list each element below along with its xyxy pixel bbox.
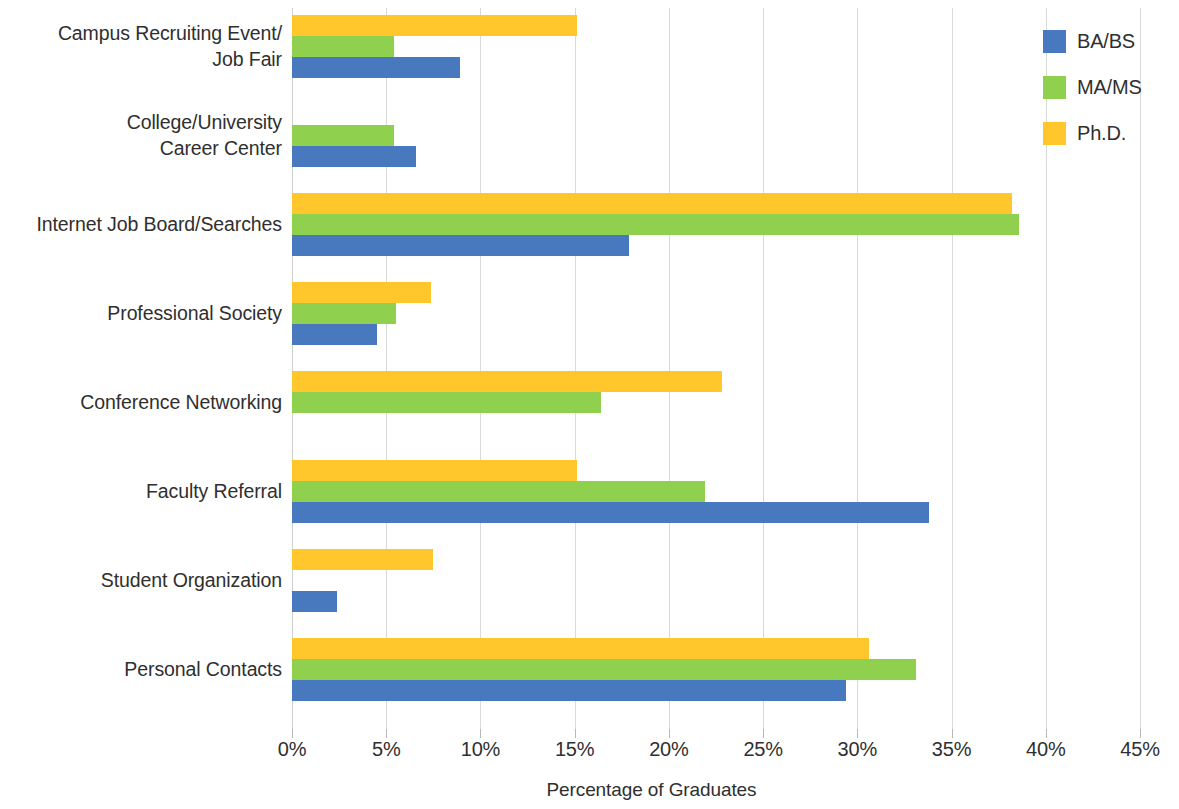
bar-group — [292, 14, 1140, 78]
bar-group — [292, 548, 1140, 612]
bar-group — [292, 459, 1140, 523]
x-axis-tick-label: 20% — [624, 738, 714, 761]
bar — [292, 392, 601, 413]
y-axis-category-label: Faculty Referral — [0, 478, 282, 504]
bar — [292, 502, 929, 523]
bar — [292, 460, 577, 481]
plot-area — [292, 8, 1140, 729]
legend-swatch-icon — [1043, 122, 1066, 145]
legend-swatch-icon — [1043, 76, 1066, 99]
y-axis-category-label: Professional Society — [0, 300, 282, 326]
x-axis-tick-label: 40% — [1001, 738, 1091, 761]
bar — [292, 638, 869, 659]
y-axis-category-label: College/University Career Center — [0, 109, 282, 161]
tick-mark-0% — [292, 729, 293, 738]
legend-swatch-icon — [1043, 30, 1066, 53]
x-axis-tick-marks — [292, 729, 1140, 738]
bar-group — [292, 370, 1140, 434]
tick-mark-20% — [669, 729, 670, 738]
bar-chart: Campus Recruiting Event/ Job FairCollege… — [0, 0, 1179, 809]
bar — [292, 324, 377, 345]
tick-mark-40% — [1046, 729, 1047, 738]
x-axis-tick-label: 15% — [530, 738, 620, 761]
x-axis-tick-label: 45% — [1095, 738, 1179, 761]
x-axis-title: Percentage of Graduates — [0, 779, 1179, 801]
bar — [292, 125, 394, 146]
bar — [292, 214, 1019, 235]
bar — [292, 303, 396, 324]
bar — [292, 235, 629, 256]
legend-item[interactable]: MA/MS — [1043, 64, 1173, 110]
x-axis-tick-label: 5% — [341, 738, 431, 761]
y-axis-category-label: Internet Job Board/Searches — [0, 211, 282, 237]
legend-label: BA/BS — [1077, 30, 1135, 53]
bar-group — [292, 637, 1140, 701]
bar — [292, 371, 722, 392]
tick-mark-25% — [763, 729, 764, 738]
legend-label: Ph.D. — [1077, 122, 1126, 145]
legend: BA/BSMA/MSPh.D. — [1043, 18, 1173, 156]
bar — [292, 549, 433, 570]
bar — [292, 193, 1012, 214]
bar — [292, 591, 337, 612]
y-axis-category-label: Student Organization — [0, 567, 282, 593]
legend-label: MA/MS — [1077, 76, 1142, 99]
bar-group — [292, 103, 1140, 167]
y-axis-category-label: Campus Recruiting Event/ Job Fair — [0, 20, 282, 72]
y-axis-category-label: Conference Networking — [0, 389, 282, 415]
bar — [292, 15, 577, 36]
bar-group — [292, 192, 1140, 256]
y-axis-category-label: Personal Contacts — [0, 656, 282, 682]
x-axis-tick-label: 30% — [812, 738, 902, 761]
tick-mark-30% — [857, 729, 858, 738]
tick-mark-5% — [386, 729, 387, 738]
x-axis-tick-label: 35% — [907, 738, 997, 761]
x-axis-tick-label: 10% — [435, 738, 525, 761]
x-axis-tick-label: 25% — [718, 738, 808, 761]
tick-mark-35% — [952, 729, 953, 738]
x-axis-tick-label: 0% — [247, 738, 337, 761]
tick-mark-45% — [1140, 729, 1141, 738]
bar — [292, 481, 705, 502]
bar — [292, 282, 431, 303]
y-axis-category-labels: Campus Recruiting Event/ Job FairCollege… — [0, 8, 282, 729]
bar-group — [292, 281, 1140, 345]
bar — [292, 146, 416, 167]
x-axis-title-text: Percentage of Graduates — [546, 779, 756, 801]
legend-item[interactable]: BA/BS — [1043, 18, 1173, 64]
bar — [292, 57, 460, 78]
tick-mark-15% — [575, 729, 576, 738]
bar — [292, 659, 916, 680]
bar — [292, 680, 846, 701]
legend-item[interactable]: Ph.D. — [1043, 110, 1173, 156]
tick-mark-10% — [480, 729, 481, 738]
bar — [292, 36, 394, 57]
